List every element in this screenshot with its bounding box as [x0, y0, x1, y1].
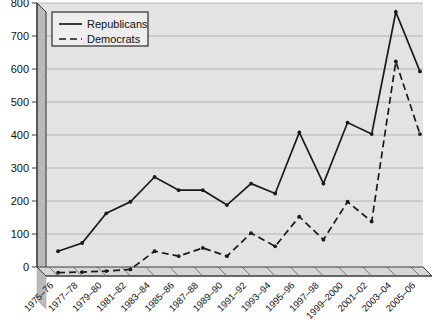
- y-tick-label: 100: [11, 228, 29, 240]
- data-point-democrats: [104, 269, 108, 273]
- data-point-republicans: [249, 182, 253, 186]
- data-point-republicans: [273, 192, 277, 196]
- data-point-democrats: [201, 246, 205, 250]
- line-chart: 01002003004005006007008001975–761977–781…: [0, 0, 443, 330]
- data-point-democrats: [177, 254, 181, 258]
- legend-label-republicans: Republicans: [87, 18, 148, 30]
- data-point-republicans: [370, 132, 374, 136]
- data-point-democrats: [225, 254, 229, 258]
- y-tick-label: 700: [11, 30, 29, 42]
- data-point-democrats: [370, 220, 374, 224]
- y-tick-label: 400: [11, 129, 29, 141]
- data-point-democrats: [322, 238, 326, 242]
- data-point-republicans: [80, 241, 84, 245]
- data-point-democrats: [346, 200, 350, 204]
- data-point-democrats: [56, 271, 60, 275]
- data-point-democrats: [249, 231, 253, 235]
- chart-container: 01002003004005006007008001975–761977–781…: [0, 0, 443, 330]
- data-point-republicans: [322, 182, 326, 186]
- data-point-democrats: [273, 244, 277, 248]
- data-point-republicans: [297, 131, 301, 135]
- legend-label-democrats: Democrats: [87, 33, 141, 45]
- y-tick-label: 600: [11, 63, 29, 75]
- y-tick-label: 300: [11, 162, 29, 174]
- data-point-republicans: [225, 203, 229, 207]
- data-point-republicans: [201, 188, 205, 192]
- data-point-democrats: [129, 268, 133, 272]
- y-tick-label: 800: [11, 0, 29, 9]
- data-point-republicans: [129, 200, 133, 204]
- data-point-republicans: [177, 188, 181, 192]
- data-point-republicans: [346, 121, 350, 125]
- data-point-republicans: [418, 70, 422, 74]
- y-tick-label: 200: [11, 195, 29, 207]
- data-point-democrats: [297, 215, 301, 219]
- data-point-democrats: [153, 249, 157, 253]
- y-tick-label: 0: [23, 261, 29, 273]
- data-point-republicans: [394, 10, 398, 14]
- data-point-republicans: [153, 175, 157, 179]
- y-tick-label: 500: [11, 96, 29, 108]
- data-point-democrats: [394, 60, 398, 64]
- data-point-democrats: [418, 132, 422, 136]
- data-point-democrats: [80, 270, 84, 274]
- data-point-republicans: [104, 211, 108, 215]
- data-point-republicans: [56, 249, 60, 253]
